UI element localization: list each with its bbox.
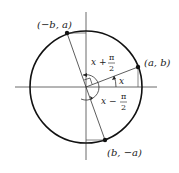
label-angle-minus-prefix: x − [101,96,116,106]
label-angle-x: x [119,76,124,86]
label-angle-plus-prefix: x + [91,57,106,67]
unit-circle-diagram: (−b, a) (a, b) (b, −a) x x + π 2 x − π 2 [0,0,179,173]
label-neg-b-a: (−b, a) [37,19,72,30]
point-b-neg-a [103,138,107,142]
label-angle-minus-num: π [121,92,126,101]
point-a-b [136,65,140,69]
label-a-b: (a, b) [144,57,171,68]
angle-plus-arrow [83,73,87,77]
label-b-neg-a: (b, −a) [107,147,142,158]
point-neg-b-a [65,31,69,35]
right-angle-marker [84,78,92,84]
label-angle-plus-den: 2 [109,64,114,73]
radius-to-b-neg-a [86,87,105,140]
label-angle-plus-num: π [109,53,114,62]
radius-to-neg-b-a [67,33,86,87]
label-angle-minus-den: 2 [121,103,126,112]
